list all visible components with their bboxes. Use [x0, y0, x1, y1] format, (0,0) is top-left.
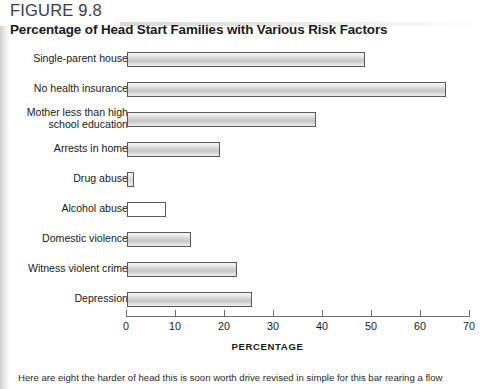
bar-category-label: Alcohol abuse: [0, 203, 128, 215]
bar-chart: Single-parent houseNo health insuranceMo…: [0, 44, 485, 344]
bar-category-label: Drug abuse: [0, 173, 128, 185]
x-axis-tick: [175, 310, 176, 317]
x-axis-tick-label: 10: [155, 320, 195, 332]
x-axis-tick: [273, 310, 274, 317]
bar: [127, 292, 252, 307]
bar-category-label: Arrests in home: [0, 143, 128, 155]
bar: [127, 262, 237, 277]
bar-category-label: Domestic violence: [0, 233, 128, 245]
x-axis-tick: [126, 310, 127, 317]
bar: [127, 172, 134, 187]
bar: [127, 52, 365, 67]
x-axis-tick-label: 70: [449, 320, 485, 332]
bar: [127, 112, 316, 127]
bar-category-label: Witness violent crime: [0, 263, 128, 275]
bar-row: Arrests in home: [0, 137, 485, 167]
x-axis-title: PERCENTAGE: [0, 341, 485, 352]
x-axis-tick: [224, 310, 225, 317]
bar: [127, 202, 166, 217]
x-axis-tick: [371, 310, 372, 317]
bar-category-label: Single-parent house: [0, 53, 128, 65]
bar-category-label: Mother less than high school education: [0, 107, 128, 130]
bar-row: Mother less than high school education: [0, 107, 485, 137]
figure-caption: Here are eight the harder of head this i…: [18, 372, 478, 386]
figure-container: FIGURE 9.8 Percentage of Head Start Fami…: [0, 0, 485, 389]
x-axis-tick-label: 50: [351, 320, 391, 332]
figure-number: FIGURE 9.8: [10, 1, 102, 20]
x-axis-tick: [469, 310, 470, 317]
x-axis-tick-label: 30: [253, 320, 293, 332]
bar: [127, 82, 446, 97]
x-axis-tick: [420, 310, 421, 317]
bar-row: Domestic violence: [0, 227, 485, 257]
bar-row: Drug abuse: [0, 167, 485, 197]
bar-row: No health insurance: [0, 77, 485, 107]
bar-row: Single-parent house: [0, 47, 485, 77]
bar-row: Witness violent crime: [0, 257, 485, 287]
bar: [127, 142, 220, 157]
x-axis-tick-label: 40: [302, 320, 342, 332]
x-axis-line: [126, 316, 469, 317]
bar-row: Depression: [0, 287, 485, 317]
bar-category-label: No health insurance: [0, 83, 128, 95]
x-axis-tick-label: 0: [106, 320, 146, 332]
x-axis-tick-label: 60: [400, 320, 440, 332]
figure-title: Percentage of Head Start Families with V…: [10, 22, 387, 37]
x-axis-tick: [322, 310, 323, 317]
x-axis-tick-label: 20: [204, 320, 244, 332]
bar-row: Alcohol abuse: [0, 197, 485, 227]
bar: [127, 232, 191, 247]
bar-category-label: Depression: [0, 293, 128, 305]
